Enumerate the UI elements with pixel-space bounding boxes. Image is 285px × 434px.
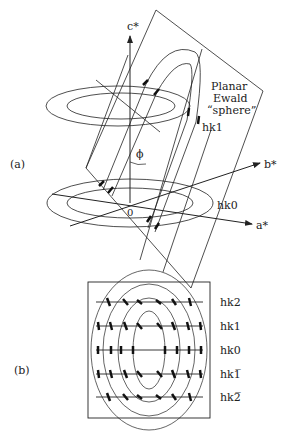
row-label-hk-2bar: hk2̅ bbox=[220, 391, 241, 404]
row-label-hk0: hk0 bbox=[220, 344, 241, 357]
row-label-hk1: hk1 bbox=[220, 320, 241, 333]
c-star-label: c* bbox=[127, 20, 139, 33]
upper-outer-ellipse bbox=[46, 86, 190, 126]
origin-label: 0 bbox=[127, 207, 133, 218]
b-star-label: b* bbox=[264, 158, 277, 171]
a-star-label: a* bbox=[256, 219, 269, 232]
b-star-axis bbox=[70, 163, 260, 226]
row-label-hk2: hk2 bbox=[220, 296, 241, 309]
hk1-layer-label: hk1 bbox=[202, 121, 223, 134]
row-label-hk-1bar: hk1̅ bbox=[220, 368, 241, 381]
ewald-plane bbox=[86, 10, 263, 288]
panel-b-label: (b) bbox=[14, 364, 30, 377]
panel-a: c* b* a* 0 ϕ Planar Ewald “sphere” hk1 h… bbox=[10, 10, 277, 288]
ewald-diagram: c* b* a* 0 ϕ Planar Ewald “sphere” hk1 h… bbox=[0, 0, 285, 434]
hk0-layer-label: hk0 bbox=[217, 199, 238, 212]
panel-b: hk2 hk1 hk0 hk1̅ hk2̅ (b) bbox=[14, 270, 241, 430]
ewald-label-line3: “sphere” bbox=[207, 104, 256, 117]
upper-inner-ellipse bbox=[67, 93, 175, 119]
phi-label: ϕ bbox=[136, 148, 144, 161]
panel-a-label: (a) bbox=[10, 158, 25, 171]
phi-arc bbox=[130, 162, 146, 165]
